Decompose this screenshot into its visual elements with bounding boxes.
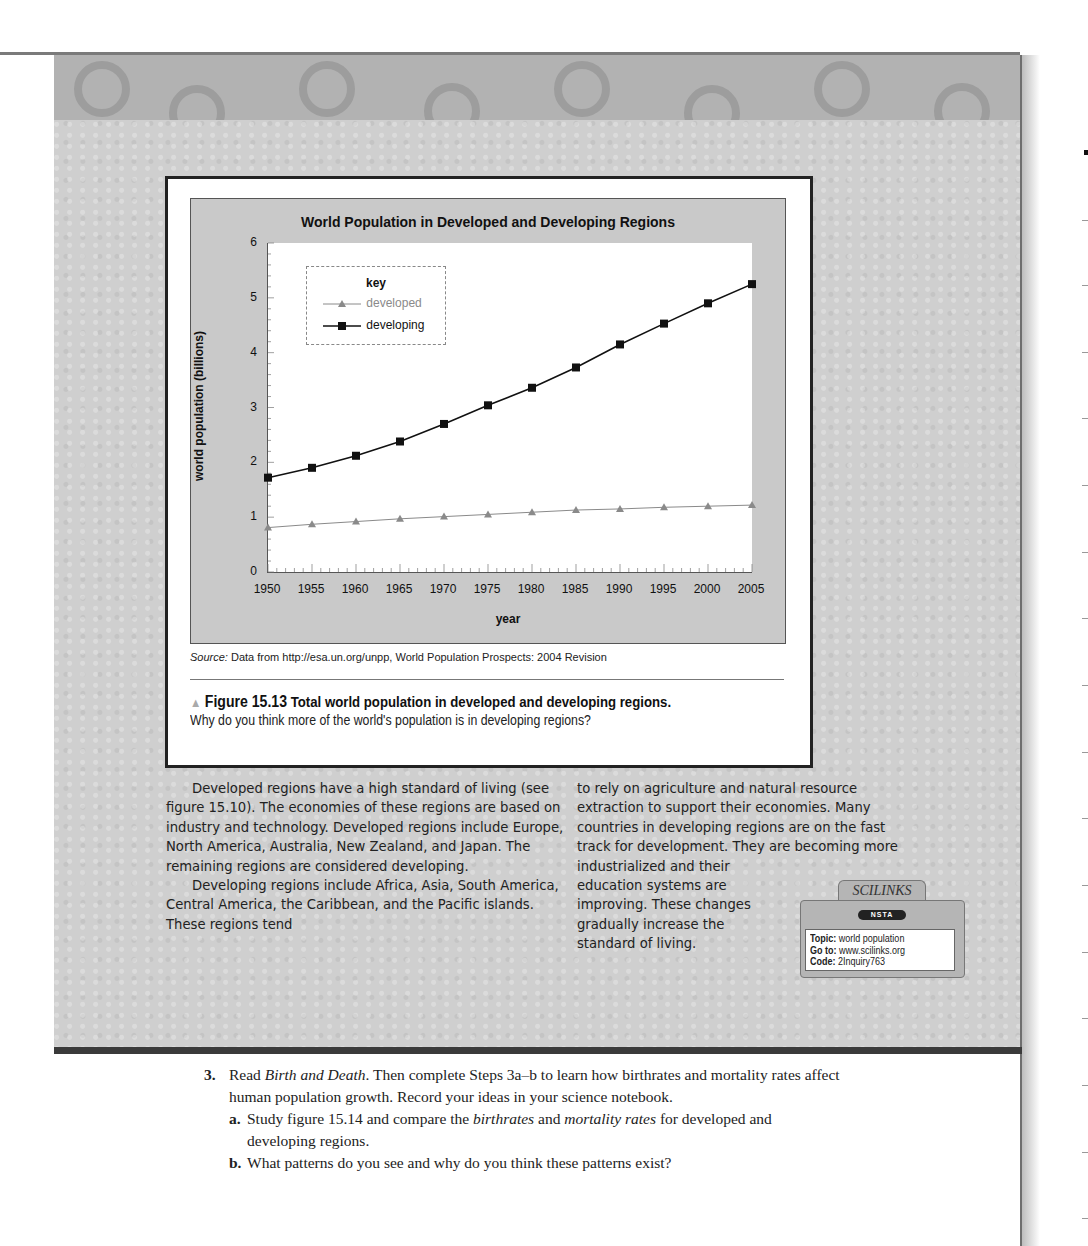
figure-title: ▲Figure 15.13 Total world population in … [190, 693, 718, 711]
step-text: Read [229, 1066, 265, 1083]
y-tick-label: 5 [237, 290, 257, 304]
figure-caption: ▲Figure 15.13 Total world population in … [190, 693, 790, 728]
topic-value: world population [836, 933, 904, 944]
x-tick-label: 2000 [687, 582, 727, 596]
term-birthrates: birthrates [473, 1110, 534, 1127]
data-point-developing [440, 420, 448, 428]
caption-divider [190, 679, 784, 680]
paragraph: Developed regions have a high standard o… [166, 779, 566, 876]
banner-motif-icon [814, 61, 870, 117]
plot-area: key developed developing [267, 243, 752, 573]
banner-motif-icon [684, 85, 740, 120]
y-tick-label: 3 [237, 400, 257, 414]
figure-15-13: World Population in Developed and Develo… [165, 176, 813, 768]
step-3a: a. Study figure 15.14 and compare the bi… [204, 1108, 844, 1152]
scilinks-code: Code: 2Inquiry763 [810, 956, 936, 968]
scilinks-goto: Go to: www.scilinks.org [810, 945, 936, 957]
x-tick-label: 1985 [555, 582, 595, 596]
decorative-banner [54, 55, 1020, 120]
code-label: Code: [810, 956, 836, 967]
margin-tick [1082, 285, 1088, 286]
series-line-developed [268, 505, 752, 527]
margin-tick [1082, 752, 1088, 753]
x-tick-label: 1960 [335, 582, 375, 596]
legend-title: key [307, 276, 445, 290]
x-tick-label: 2005 [731, 582, 771, 596]
scilinks-card: Topic: world population Go to: www.scili… [805, 929, 955, 971]
y-tick-label: 0 [237, 564, 257, 578]
margin-tick [1082, 352, 1088, 353]
figure-question: Why do you think more of the world's pop… [190, 712, 718, 728]
y-tick-label: 4 [237, 345, 257, 359]
data-point-developed [748, 501, 756, 508]
figure-title-text: Total world population in developed and … [291, 693, 671, 710]
margin-tick [1082, 1018, 1088, 1019]
margin-marker [1084, 150, 1088, 155]
data-point-developing [352, 452, 360, 460]
step-text: Study figure 15.14 and compare the [247, 1110, 473, 1127]
substep-letter: b. [229, 1152, 242, 1174]
source-text: Data from http://esa.un.org/unpp, World … [228, 651, 607, 663]
scilinks-logo: SCILINKS [839, 883, 925, 899]
x-tick-label: 1975 [467, 582, 507, 596]
legend-item-developed: developed [323, 296, 422, 310]
body-column-left: Developed regions have a high standard o… [166, 779, 566, 934]
y-tick-label: 2 [237, 454, 257, 468]
y-tick-label: 1 [237, 509, 257, 523]
x-tick-label: 1990 [599, 582, 639, 596]
margin-tick [1082, 685, 1088, 686]
data-point-developing [572, 363, 580, 371]
x-tick-label: 1970 [423, 582, 463, 596]
data-point-developing [704, 299, 712, 307]
step-3b: b. What patterns do you see and why do y… [204, 1152, 844, 1174]
panel-bottom-border [54, 1047, 1022, 1054]
margin-tick [1082, 818, 1088, 819]
banner-motif-icon [424, 83, 480, 120]
data-point-developing [748, 280, 756, 288]
goto-link[interactable]: www.scilinks.org [836, 945, 905, 956]
step-text: and [534, 1110, 564, 1127]
step-text: What patterns do you see and why do you … [247, 1154, 671, 1171]
margin-tick [1082, 1218, 1088, 1219]
step-3: 3. Read Birth and Death. Then complete S… [204, 1064, 844, 1108]
banner-motif-icon [169, 85, 225, 120]
code-value: 2Inquiry763 [836, 956, 886, 967]
paragraph: Developing regions include Africa, Asia,… [166, 876, 566, 934]
text-line: extraction to support their economies. M… [577, 798, 977, 817]
figure-number: Figure 15.13 [205, 693, 287, 710]
margin-tick [1082, 1085, 1088, 1086]
data-point-developing [484, 401, 492, 409]
x-tick-label: 1965 [379, 582, 419, 596]
triangle-marker-icon [323, 299, 361, 309]
data-point-developing [308, 464, 316, 472]
margin-tick [1082, 552, 1088, 553]
margin-tick [1082, 618, 1088, 619]
text-line: industrialized and their [577, 857, 977, 876]
margin-tick [1082, 220, 1088, 221]
triangle-bullet-icon: ▲ [190, 695, 201, 710]
goto-label: Go to: [810, 945, 836, 956]
page-edge-shadow [1022, 55, 1040, 1246]
chart-title: World Population in Developed and Develo… [191, 214, 785, 230]
x-tick-label: 1950 [247, 582, 287, 596]
right-margin-rule [1020, 1054, 1022, 1246]
y-axis-label: world population (billions) [192, 276, 206, 536]
data-point-developing [264, 474, 272, 482]
scilinks-box: SCILINKS Topic: world population Go to: … [800, 880, 965, 978]
chart-panel: World Population in Developed and Develo… [190, 198, 786, 644]
margin-tick [1082, 952, 1088, 953]
source-label: Source: [190, 651, 228, 663]
legend-label-developed: developed [366, 296, 421, 310]
banner-motif-icon [554, 61, 610, 117]
y-tick-label: 6 [237, 235, 257, 249]
data-point-developing [528, 384, 536, 392]
text-line: to rely on agriculture and natural resou… [577, 779, 977, 798]
banner-motif-icon [934, 83, 990, 120]
x-tick-label: 1995 [643, 582, 683, 596]
x-tick-label: 1980 [511, 582, 551, 596]
banner-motif-icon [299, 61, 355, 117]
nsta-badge: NSTA [858, 910, 906, 920]
banner-motif-icon [74, 61, 130, 117]
chart-legend: key developed developing [306, 266, 446, 345]
margin-tick [1082, 885, 1088, 886]
